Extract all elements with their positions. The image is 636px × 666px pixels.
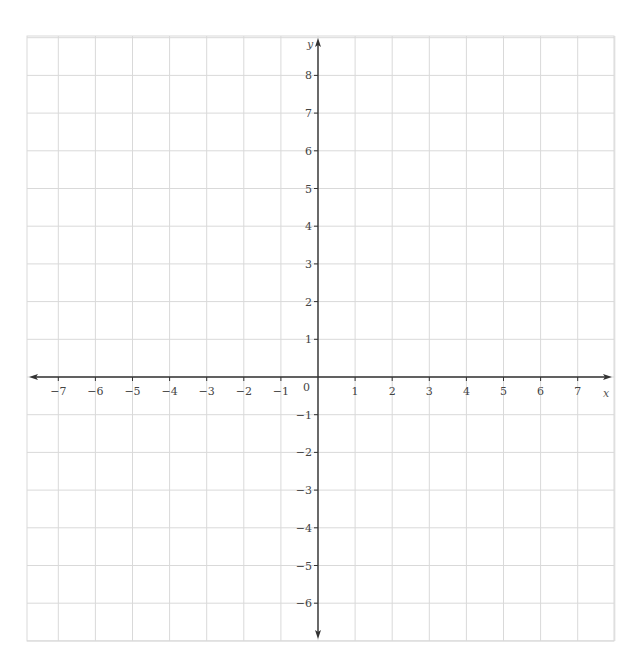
- y-tick-label: −3: [296, 484, 312, 497]
- y-tick-label: −4: [296, 522, 312, 535]
- y-tick-label: 5: [305, 183, 312, 196]
- y-tick-label: 4: [305, 220, 312, 233]
- coordinate-plane: −7−6−5−4−3−2−11234567−6−5−4−3−2−11234567…: [0, 0, 636, 666]
- x-tick-label: 7: [574, 385, 581, 398]
- y-tick-label: 6: [305, 145, 312, 158]
- x-tick-label: 5: [500, 385, 507, 398]
- tick-labels: −7−6−5−4−3−2−11234567−6−5−4−3−2−11234567…: [50, 38, 610, 610]
- y-tick-label: 7: [305, 107, 312, 120]
- y-tick-label: −1: [296, 409, 312, 422]
- grid-lines: [27, 36, 615, 641]
- x-tick-label: 1: [352, 385, 359, 398]
- y-axis-label: y: [306, 38, 314, 51]
- grid-border: [27, 36, 614, 641]
- x-tick-label: −7: [50, 385, 66, 398]
- x-tick-label: 4: [463, 385, 470, 398]
- x-tick-label: −4: [161, 385, 177, 398]
- axes: [29, 38, 612, 639]
- x-tick-label: −6: [87, 385, 103, 398]
- y-tick-label: −5: [296, 560, 312, 573]
- y-tick-label: 8: [305, 69, 312, 82]
- x-tick-label: 2: [389, 385, 396, 398]
- y-tick-label: −6: [296, 597, 312, 610]
- y-tick-label: 3: [305, 258, 312, 271]
- x-tick-label: 6: [537, 385, 544, 398]
- x-axis-label: x: [603, 387, 610, 400]
- y-tick-label: 1: [305, 333, 312, 346]
- x-tick-label: 3: [426, 385, 433, 398]
- x-tick-label: −1: [273, 385, 289, 398]
- y-tick-label: 2: [305, 296, 312, 309]
- origin-label: 0: [303, 381, 310, 394]
- x-tick-label: −2: [236, 385, 252, 398]
- y-tick-label: −2: [296, 446, 312, 459]
- x-tick-label: −3: [199, 385, 215, 398]
- x-tick-label: −5: [124, 385, 140, 398]
